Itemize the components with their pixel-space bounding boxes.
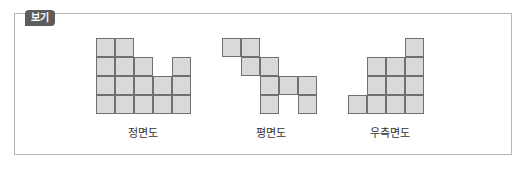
cell: [260, 57, 279, 76]
cell: [405, 57, 424, 76]
right-side-view-label: 우측면도: [370, 124, 410, 140]
cell: [172, 57, 191, 76]
front-view-label: 정면도: [128, 124, 158, 140]
cell: [260, 95, 279, 114]
cell: [386, 76, 405, 95]
cell: [367, 76, 386, 95]
cell: [172, 95, 191, 114]
cell: [134, 76, 153, 95]
cell: [298, 95, 317, 114]
top-view-label: 평면도: [256, 124, 286, 140]
cell: [115, 76, 134, 95]
cell: [134, 57, 153, 76]
cell: [279, 76, 298, 95]
cell: [96, 57, 115, 76]
cell: [260, 76, 279, 95]
cell: [298, 76, 317, 95]
cell: [115, 95, 134, 114]
cell: [96, 95, 115, 114]
cell: [405, 38, 424, 57]
cell: [222, 38, 241, 57]
cell: [153, 95, 172, 114]
cell: [96, 38, 115, 57]
cell: [115, 57, 134, 76]
cell: [241, 38, 260, 57]
cell: [367, 57, 386, 76]
cell: [348, 95, 367, 114]
cell: [367, 95, 386, 114]
cell: [172, 76, 191, 95]
cell: [386, 95, 405, 114]
example-badge: 보기: [25, 10, 55, 26]
cell: [153, 76, 172, 95]
cell: [386, 57, 405, 76]
cell: [241, 57, 260, 76]
cell: [405, 95, 424, 114]
cell: [405, 76, 424, 95]
cell: [96, 76, 115, 95]
cell: [134, 95, 153, 114]
cell: [115, 38, 134, 57]
